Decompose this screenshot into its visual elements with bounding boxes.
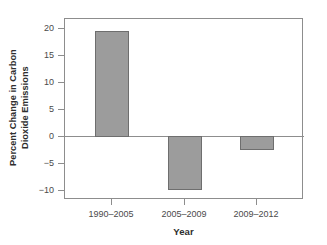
bar-2009-2012 [240, 136, 274, 150]
y-tick-label-20: 20 [14, 24, 54, 33]
y-tick-label-neg10: −10 [14, 186, 54, 195]
x-tick-mark-1990-2005 [111, 199, 112, 205]
y-tick-label-0: 0 [14, 132, 54, 141]
y-tick-label-15: 15 [14, 51, 54, 60]
plot-area [64, 18, 303, 199]
x-tick-label-2009-2012: 2009–2012 [211, 209, 301, 219]
y-tick-label-10: 10 [14, 78, 54, 87]
y-tick-label-neg5: −5 [14, 159, 54, 168]
x-axis-title: Year [64, 226, 303, 237]
x-tick-mark-2009-2012 [256, 199, 257, 205]
bar-chart-figure: Percent Change in Carbon Dioxide Emissio… [0, 0, 327, 245]
y-tick-label-5: 5 [14, 105, 54, 114]
bar-2005-2009 [168, 136, 202, 190]
x-tick-mark-2005-2009 [184, 199, 185, 205]
bar-1990-2005 [95, 31, 129, 137]
